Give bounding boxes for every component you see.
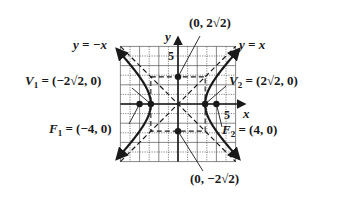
vertex-top-label: (0, 2√2) — [189, 16, 231, 29]
asymptote-eq-neg: y = −x — [73, 37, 107, 52]
bottom-point-text: (0, −2√2) — [190, 171, 239, 186]
hyperbola-diagram: y = −x y = x (0, 2√2) (0, −2√2) V1 = (−2… — [0, 0, 337, 202]
top-point-text: (0, 2√2) — [189, 15, 231, 30]
x-tick-5: 5 — [224, 109, 230, 121]
asymptote-label-pos: y = x — [239, 38, 265, 51]
f2-letter: F — [222, 122, 231, 137]
leader-f1 — [129, 104, 140, 124]
point-bottom-dot — [175, 128, 181, 134]
x-tick-text: 5 — [224, 108, 230, 122]
f2-label: F2 = (4, 0) — [222, 123, 277, 139]
y-tick-5: 5 — [168, 50, 174, 62]
point-top-dot — [175, 74, 181, 80]
v2-label: V2 = (2√2, 0) — [229, 74, 298, 90]
x-axis-label: x — [243, 107, 250, 120]
f1-label: F1 = (−4, 0) — [49, 122, 112, 138]
v2-letter: V — [229, 73, 238, 88]
f2-value: = (4, 0) — [235, 122, 277, 137]
v2-value: = (2√2, 0) — [242, 73, 298, 88]
leader-top — [178, 36, 200, 77]
leader-bottom — [178, 131, 203, 171]
v1-label: V1 = (−2√2, 0) — [25, 74, 101, 90]
y-axis-text: y — [165, 29, 171, 44]
f1-letter: F — [49, 121, 58, 136]
x-axis-text: x — [243, 106, 250, 121]
y-axis-label: y — [165, 30, 171, 43]
asymptote-eq-pos: y = x — [239, 37, 265, 52]
v1-letter: V — [25, 73, 34, 88]
f1-value: = (−4, 0) — [62, 121, 111, 136]
y-tick-text: 5 — [168, 49, 174, 63]
vertex-bottom-label: (0, −2√2) — [190, 172, 239, 185]
v1-value: = (−2√2, 0) — [38, 73, 101, 88]
asymptote-label-neg: y = −x — [73, 38, 107, 51]
